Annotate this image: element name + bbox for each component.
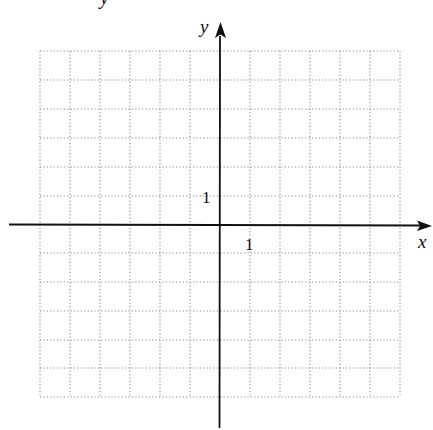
x-axis-label: x	[417, 231, 427, 252]
x-tick-label-1: 1	[245, 235, 254, 254]
y-axis-arrow-icon	[215, 22, 226, 38]
top-clipped-label: y	[98, 0, 109, 9]
coordinate-plane: y y x 1 1	[0, 0, 433, 430]
y-axis-label: y	[198, 16, 209, 37]
y-tick-label-1: 1	[202, 188, 211, 207]
